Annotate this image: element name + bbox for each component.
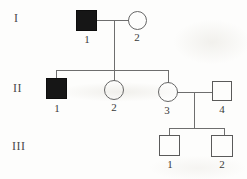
individual-II-1-affected-male xyxy=(46,78,67,99)
generation-label-2: II xyxy=(13,82,22,94)
individual-I-2-female xyxy=(128,11,147,30)
descent-line-gen1 xyxy=(114,20,115,71)
generation-label-3: III xyxy=(12,140,26,152)
label-II-2: 2 xyxy=(104,102,124,113)
sibship-line-gen3 xyxy=(169,128,225,129)
marriage-line-gen1 xyxy=(96,20,129,21)
individual-II-3-female xyxy=(158,82,178,102)
descent-line-gen2 xyxy=(194,92,195,129)
label-II-4: 4 xyxy=(212,104,232,115)
label-I-2: 2 xyxy=(127,32,147,43)
label-III-2: 2 xyxy=(212,159,232,170)
label-III-1: 1 xyxy=(160,159,180,170)
label-II-3: 3 xyxy=(157,105,177,116)
label-I-1: 1 xyxy=(77,34,97,45)
pedigree-chart: I II III 1 2 1 2 3 4 1 2 xyxy=(0,0,247,179)
label-II-1: 1 xyxy=(47,103,67,114)
individual-II-2-female xyxy=(104,80,124,100)
sibship-line-gen2 xyxy=(56,70,169,71)
individual-III-2-male xyxy=(211,135,233,157)
individual-II-4-male xyxy=(212,81,232,101)
individual-III-1-male xyxy=(159,135,180,156)
generation-label-1: I xyxy=(14,12,19,24)
individual-I-1-affected-male xyxy=(76,10,97,31)
